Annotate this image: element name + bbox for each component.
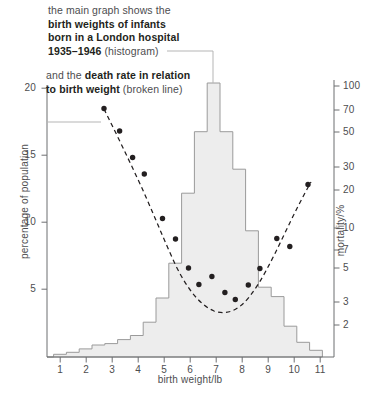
data-point	[222, 290, 227, 295]
figure-birth-weight-mortality: the main graph shows the birth weights o…	[0, 0, 381, 396]
annotation-histogram-line4-rest: (histogram)	[101, 45, 158, 57]
data-point	[209, 274, 214, 279]
y2-tick-label: 30	[343, 161, 373, 172]
annotation-death-line1-plain: and the	[46, 69, 85, 81]
annotation-histogram: the main graph shows the birth weights o…	[48, 4, 228, 58]
data-point	[257, 266, 262, 271]
y2-tick-label: 5	[343, 262, 373, 273]
annotation-death-line2-bold: to birth weight	[46, 83, 120, 95]
annotation-death-rate: and the death rate in relation to birth …	[46, 69, 236, 96]
annotation-histogram-line3: born in a London hospital	[48, 31, 179, 43]
y2-tick-label: 70	[343, 104, 373, 115]
annotation-histogram-line4-bold: 1935–1946	[48, 45, 101, 57]
left-axis	[42, 85, 48, 357]
y-axis-title: percentage of population	[19, 132, 30, 272]
y2-tick-label: 20	[343, 184, 373, 195]
x-axis	[47, 357, 334, 363]
data-point	[196, 282, 201, 287]
chart-canvas	[0, 0, 381, 396]
x-tick-label: 1	[50, 364, 70, 375]
histogram-series	[47, 83, 322, 357]
annotation-histogram-line1: the main graph shows the	[48, 4, 171, 16]
y-tick-label: 20	[10, 82, 36, 93]
data-point	[142, 171, 147, 176]
annotation-death-line1-bold: death rate in relation	[85, 69, 190, 81]
data-point	[233, 297, 238, 302]
data-point	[186, 265, 191, 270]
y2-tick-label: 2	[343, 319, 373, 330]
y-tick-label: 5	[10, 283, 36, 294]
y2-tick-label: 3	[343, 296, 373, 307]
y2-tick-label: 7	[343, 244, 373, 255]
y2-tick-label: 100	[343, 80, 373, 91]
data-point	[117, 128, 122, 133]
y2-tick-label: 50	[343, 126, 373, 137]
annotation-death-line2-rest: (broken line)	[120, 83, 183, 95]
data-point	[173, 236, 178, 241]
y2-tick-label: 10	[343, 222, 373, 233]
data-point	[287, 244, 292, 249]
x-axis-title: birth weight/lb	[80, 374, 300, 385]
annotation-histogram-line2: birth weights of infants	[48, 18, 166, 30]
data-point	[160, 216, 165, 221]
histogram-shape	[47, 83, 322, 357]
data-point	[246, 282, 251, 287]
data-point	[305, 182, 310, 187]
data-point	[274, 236, 279, 241]
y2-axis-title: mortality/%	[335, 171, 346, 291]
data-point	[130, 155, 135, 160]
data-point	[101, 106, 106, 111]
x-tick-label: 11	[310, 364, 330, 375]
